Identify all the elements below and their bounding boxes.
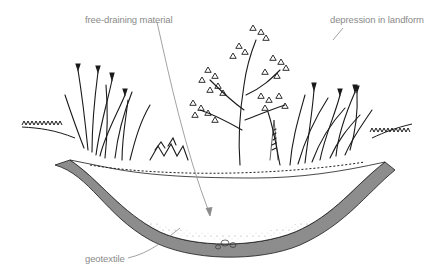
label-depression-in-landform: depression in landform bbox=[330, 14, 424, 25]
label-free-draining-material: free-draining material bbox=[85, 14, 173, 25]
rain-garden-illustration bbox=[0, 0, 433, 270]
depression-in-landform-leader bbox=[333, 28, 343, 40]
label-geotextile: geotextile bbox=[85, 253, 125, 264]
plants bbox=[65, 25, 372, 165]
